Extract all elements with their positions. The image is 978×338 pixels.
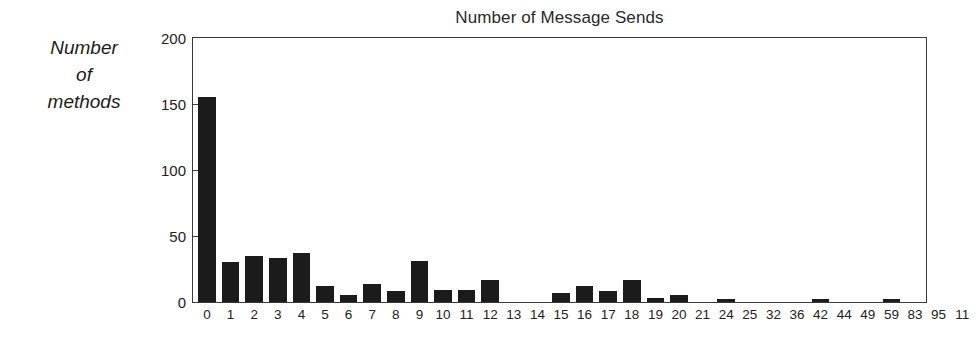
bar xyxy=(717,299,735,302)
x-axis-tick-label: 12 xyxy=(483,307,498,322)
bar xyxy=(387,291,405,302)
x-axis-tick-label: 17 xyxy=(601,307,616,322)
x-axis-tick-label: 44 xyxy=(837,307,852,322)
x-axis-tick-label: 25 xyxy=(742,307,757,322)
x-axis-tick-label: 42 xyxy=(813,307,828,322)
bar xyxy=(198,97,216,302)
x-axis-tick-label: 95 xyxy=(931,307,946,322)
x-axis-tick-label: 10 xyxy=(435,307,450,322)
x-axis-tick-label: 1 xyxy=(227,307,235,322)
x-axis-tick-label: 59 xyxy=(884,307,899,322)
bar xyxy=(647,298,665,302)
x-axis-tick-label: 36 xyxy=(789,307,804,322)
x-axis-tick-label: 14 xyxy=(530,307,545,322)
x-axis-tick-label: 15 xyxy=(553,307,568,322)
x-axis-tick-label: 11 xyxy=(460,307,474,322)
x-axis-tick-label: 32 xyxy=(766,307,781,322)
bar xyxy=(245,256,263,302)
x-axis-tick-label: 0 xyxy=(203,307,211,322)
x-axis-tick-label: 21 xyxy=(695,307,710,322)
y-axis-tick-labels: 050100150200 xyxy=(138,37,186,303)
chart-title: Number of Message Sends xyxy=(192,8,927,28)
bar xyxy=(883,299,901,302)
x-axis-tick-label: 19 xyxy=(648,307,663,322)
bar xyxy=(481,280,499,302)
bar xyxy=(623,280,641,302)
y-axis-title-line-2: of xyxy=(14,61,154,88)
bar xyxy=(552,293,570,302)
x-axis-tick-label: 8 xyxy=(392,307,400,322)
x-axis-tick-label: 83 xyxy=(907,307,922,322)
x-axis-tick-label: 49 xyxy=(860,307,875,322)
bar xyxy=(293,253,311,302)
y-axis-tick-label: 200 xyxy=(140,30,186,47)
bar xyxy=(458,290,476,302)
bar xyxy=(411,261,429,302)
x-axis-tick-label: 18 xyxy=(624,307,639,322)
x-axis-tick-label: 16 xyxy=(577,307,592,322)
x-axis-tick-label: 11 xyxy=(955,307,969,322)
bar xyxy=(812,299,830,302)
x-axis-tick-label: 3 xyxy=(274,307,282,322)
bar xyxy=(670,295,688,302)
x-axis-tick-label: 4 xyxy=(298,307,306,322)
y-axis-tick-label: 0 xyxy=(140,294,186,311)
bar xyxy=(363,284,381,302)
bar xyxy=(340,295,358,302)
x-axis-tick-label: 24 xyxy=(719,307,734,322)
bar xyxy=(576,286,594,302)
x-axis-tick-label: 20 xyxy=(671,307,686,322)
x-axis-tick-label: 5 xyxy=(321,307,329,322)
bar xyxy=(316,286,334,302)
x-axis-tick-label: 7 xyxy=(368,307,376,322)
bar xyxy=(269,258,287,302)
x-axis-tick-label: 9 xyxy=(416,307,424,322)
y-axis-tick-label: 50 xyxy=(140,228,186,245)
y-axis-tick-label: 150 xyxy=(140,96,186,113)
bar xyxy=(434,290,452,302)
bar xyxy=(222,262,240,302)
y-axis-title-line-1: Number xyxy=(14,34,154,61)
bar-series xyxy=(193,38,926,302)
y-axis-title-line-3: methods xyxy=(14,88,154,115)
x-axis-tick-label: 2 xyxy=(250,307,258,322)
y-axis-title: Number of methods xyxy=(14,34,154,115)
bar xyxy=(599,291,617,302)
x-axis-tick-label: 6 xyxy=(345,307,353,322)
chart-figure: Number of Message Sends Number of method… xyxy=(0,0,978,338)
x-axis-tick-label: 13 xyxy=(506,307,521,322)
y-axis-tick-label: 100 xyxy=(140,162,186,179)
x-axis-tick-labels: 0123456789101112131415161718192021242532… xyxy=(193,307,938,329)
